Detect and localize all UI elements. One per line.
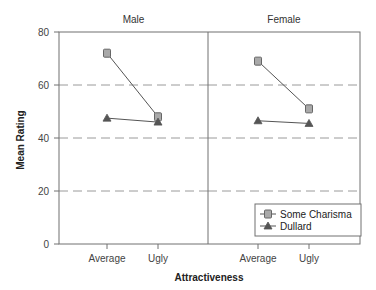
square-marker xyxy=(255,57,262,65)
y-tick-label: 40 xyxy=(38,133,50,144)
series-some-charisma-male xyxy=(104,49,162,121)
series-line xyxy=(258,121,309,124)
y-tick-label: 20 xyxy=(38,186,50,197)
legend-label: Dullard xyxy=(280,221,312,232)
x-axis-title: Attractiveness xyxy=(175,272,244,283)
series-dullard-male xyxy=(103,114,162,125)
series-dullard-female xyxy=(254,117,313,127)
series-line xyxy=(107,118,158,122)
y-tick-label: 80 xyxy=(38,27,50,38)
series-some-charisma-female xyxy=(255,57,313,113)
square-marker xyxy=(306,105,313,113)
y-tick-label: 60 xyxy=(38,80,50,91)
triangle-marker xyxy=(254,117,262,124)
x-tick-label: Ugly xyxy=(148,253,168,264)
panel-title-male: Male xyxy=(123,14,145,25)
y-axis: 020406080 xyxy=(38,27,59,250)
x-tick-label: Ugly xyxy=(299,253,319,264)
x-tick-label: Average xyxy=(88,253,126,264)
square-marker xyxy=(265,210,272,218)
x-axis: AverageUglyAverageUgly xyxy=(88,244,319,264)
legend: Some CharismaDullard xyxy=(255,204,361,236)
square-marker xyxy=(104,49,111,57)
y-tick-label: 0 xyxy=(43,239,49,250)
legend-label: Some Charisma xyxy=(280,209,352,220)
x-tick-label: Average xyxy=(239,253,277,264)
gridlines xyxy=(59,85,360,191)
panel-title-female: Female xyxy=(267,14,301,25)
panel-titles: MaleFemale xyxy=(123,14,301,25)
y-axis-title: Mean Rating xyxy=(15,110,26,169)
triangle-marker xyxy=(103,114,111,121)
chart-svg: 020406080 AverageUglyAverageUgly MaleFem… xyxy=(0,0,376,290)
